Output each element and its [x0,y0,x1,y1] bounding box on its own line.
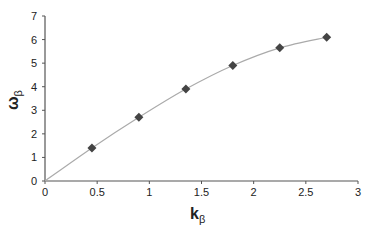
y-tick-label: 1 [31,151,37,163]
data-point-marker [322,33,331,42]
chart: 00.511.522.5301234567 kβ ωβ [0,0,372,229]
y-tick-label: 6 [31,34,37,46]
y-tick-label: 4 [31,81,37,93]
plot-area [45,33,331,181]
tick-labels: 00.511.522.5301234567 [31,10,361,198]
x-tick-label: 1.5 [194,186,209,198]
axes [42,16,358,184]
data-point-marker [275,43,284,52]
y-tick-label: 7 [31,10,37,22]
x-tick-label: 0 [42,186,48,198]
data-point-marker [181,85,190,94]
x-axis-label: kβ [190,205,205,225]
x-tick-label: 3 [355,186,361,198]
data-point-marker [134,113,143,122]
x-tick-label: 0.5 [90,186,105,198]
y-tick-label: 3 [31,104,37,116]
y-axis-label: ωβ [4,90,24,110]
data-point-marker [87,144,96,153]
x-tick-label: 2 [251,186,257,198]
y-tick-label: 5 [31,57,37,69]
y-tick-label: 2 [31,128,37,140]
y-tick-label: 0 [31,175,37,187]
fit-curve [45,37,327,181]
x-tick-label: 2.5 [298,186,313,198]
data-point-marker [228,61,237,70]
x-tick-label: 1 [146,186,152,198]
